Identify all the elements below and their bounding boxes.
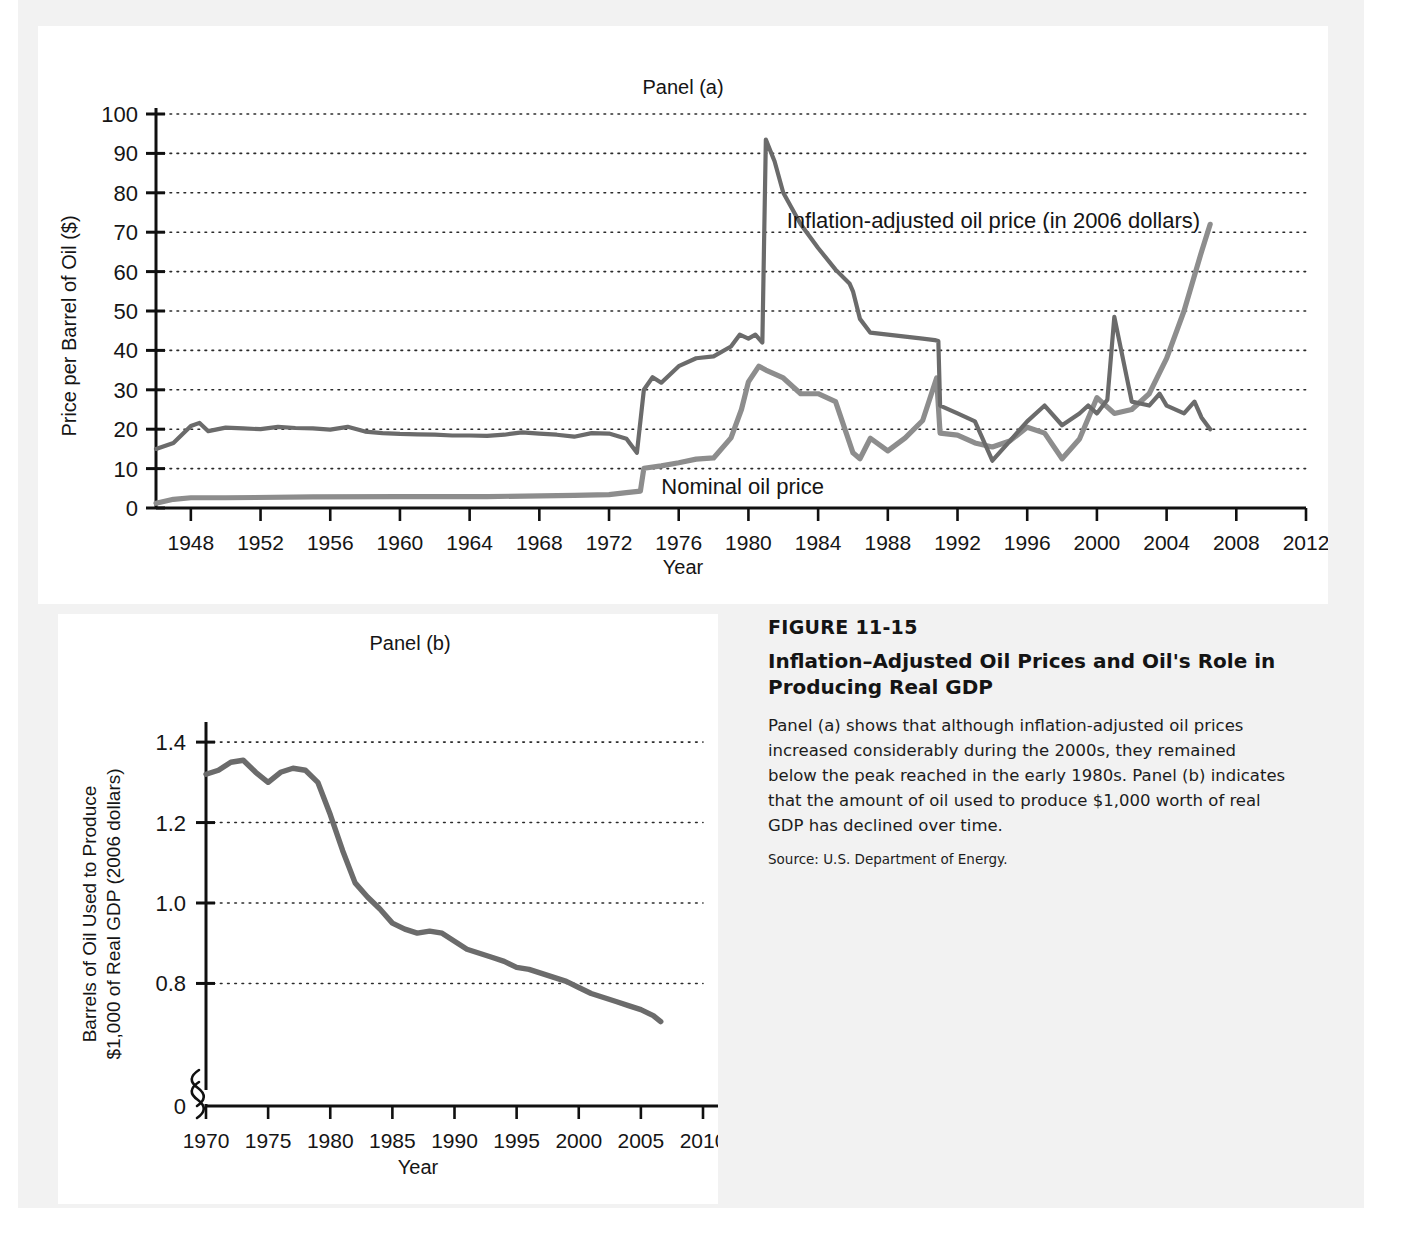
svg-text:2008: 2008: [1213, 531, 1260, 554]
svg-text:50: 50: [114, 299, 138, 324]
svg-text:1976: 1976: [655, 531, 702, 554]
panel-b-y-tick-labels: 1.41.21.00.80: [155, 730, 186, 1119]
svg-text:70: 70: [114, 220, 138, 245]
svg-text:2004: 2004: [1143, 531, 1190, 554]
svg-text:1990: 1990: [431, 1129, 478, 1152]
svg-text:20: 20: [114, 417, 138, 442]
panel-a-gridlines: [156, 114, 1306, 469]
svg-text:1992: 1992: [934, 531, 981, 554]
svg-text:100: 100: [101, 102, 138, 127]
svg-text:1988: 1988: [864, 531, 911, 554]
figure-description: Panel (a) shows that although inflation-…: [768, 713, 1288, 838]
figure-source: Source: U.S. Department of Energy.: [768, 850, 1288, 869]
svg-text:1960: 1960: [377, 531, 424, 554]
panel-a-chart: Panel (a) 0102030405060708090100 1948195…: [38, 26, 1328, 604]
svg-text:0.8: 0.8: [155, 971, 186, 996]
svg-text:1968: 1968: [516, 531, 563, 554]
page-left-margin: [0, 0, 18, 1246]
svg-text:80: 80: [114, 181, 138, 206]
svg-text:30: 30: [114, 378, 138, 403]
svg-text:0: 0: [126, 496, 138, 521]
svg-text:1980: 1980: [307, 1129, 354, 1152]
svg-text:1972: 1972: [586, 531, 633, 554]
panel-a-x-axis-label: Year: [663, 556, 704, 578]
figure-title: Inflation–Adjusted Oil Prices and Oil's …: [768, 648, 1288, 701]
svg-text:2005: 2005: [618, 1129, 665, 1152]
panel-b-series: [206, 760, 661, 1021]
page-right-margin: [1364, 0, 1424, 1246]
page-bottom-margin: [0, 1208, 1424, 1246]
svg-text:1952: 1952: [237, 531, 284, 554]
panel-a-annotations: Inflation-adjusted oil price (in 2006 do…: [661, 208, 1200, 499]
svg-text:2000: 2000: [1074, 531, 1121, 554]
figure-caption-block: FIGURE 11-15 Inflation–Adjusted Oil Pric…: [768, 616, 1288, 869]
svg-text:2010: 2010: [680, 1129, 718, 1152]
svg-text:1948: 1948: [167, 531, 214, 554]
panel-a-x-tick-labels: 1948195219561960196419681972197619801984…: [167, 531, 1328, 554]
svg-text:2000: 2000: [555, 1129, 602, 1152]
panel-a-y-tick-labels: 0102030405060708090100: [101, 102, 138, 521]
panel-a-series: [156, 140, 1210, 504]
svg-text:1.4: 1.4: [155, 730, 186, 755]
panel-b-gridlines: [206, 742, 703, 983]
svg-text:40: 40: [114, 338, 138, 363]
annotation-0: Inflation-adjusted oil price (in 2006 do…: [787, 208, 1200, 233]
panel-a-axes: [146, 108, 1306, 521]
svg-text:1956: 1956: [307, 531, 354, 554]
svg-text:1964: 1964: [446, 531, 493, 554]
svg-text:1.2: 1.2: [155, 811, 186, 836]
panel-a-y-axis-label: Price per Barrel of Oil ($): [58, 215, 80, 436]
svg-text:1996: 1996: [1004, 531, 1051, 554]
panel-b-x-axis-label: Year: [398, 1156, 439, 1178]
panel-a-title: Panel (a): [642, 76, 723, 98]
svg-text:1980: 1980: [725, 531, 772, 554]
annotation-1: Nominal oil price: [661, 474, 824, 499]
svg-text:2012: 2012: [1283, 531, 1328, 554]
panel-a-card: Panel (a) 0102030405060708090100 1948195…: [38, 26, 1328, 604]
panel-b-title: Panel (b): [369, 632, 450, 654]
svg-text:1984: 1984: [795, 531, 842, 554]
figure-number: FIGURE 11-15: [768, 616, 1288, 638]
panel-b-x-tick-labels: 197019751980198519901995200020052010: [183, 1129, 718, 1152]
svg-text:1970: 1970: [183, 1129, 230, 1152]
svg-text:0: 0: [174, 1094, 186, 1119]
svg-text:10: 10: [114, 457, 138, 482]
panel-b-y-axis-label-line1: Barrels of Oil Used to Produce: [79, 786, 100, 1043]
svg-text:1985: 1985: [369, 1129, 416, 1152]
panel-b-y-axis-label-line2: $1,000 of Real GDP (2006 dollars): [103, 768, 124, 1059]
panel-b-chart: Panel (b) 1.41.21.00.80 1970197519801985…: [58, 614, 718, 1204]
svg-text:60: 60: [114, 260, 138, 285]
svg-text:1.0: 1.0: [155, 891, 186, 916]
svg-text:1995: 1995: [493, 1129, 540, 1152]
panel-b-card: Panel (b) 1.41.21.00.80 1970197519801985…: [58, 614, 718, 1204]
svg-text:90: 90: [114, 141, 138, 166]
svg-text:1975: 1975: [245, 1129, 292, 1152]
